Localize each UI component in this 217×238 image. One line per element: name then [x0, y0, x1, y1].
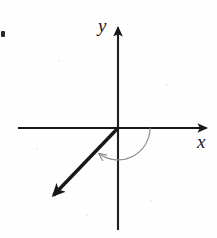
- coordinate-plane-drawing: [0, 0, 217, 238]
- paper-noise-dot: [166, 84, 168, 86]
- paper-noise-dot: [36, 148, 38, 150]
- vector-ray: [54, 128, 119, 195]
- scan-speck-icon: [1, 31, 5, 37]
- paper-noise-dot: [58, 60, 60, 62]
- x-axis-label: x: [197, 132, 205, 151]
- figure-canvas: y x: [0, 0, 217, 238]
- paper-noise-dot: [150, 200, 152, 202]
- paper-noise-dot: [86, 214, 88, 216]
- angle-arc-path: [99, 128, 150, 160]
- y-axis-label: y: [98, 16, 106, 35]
